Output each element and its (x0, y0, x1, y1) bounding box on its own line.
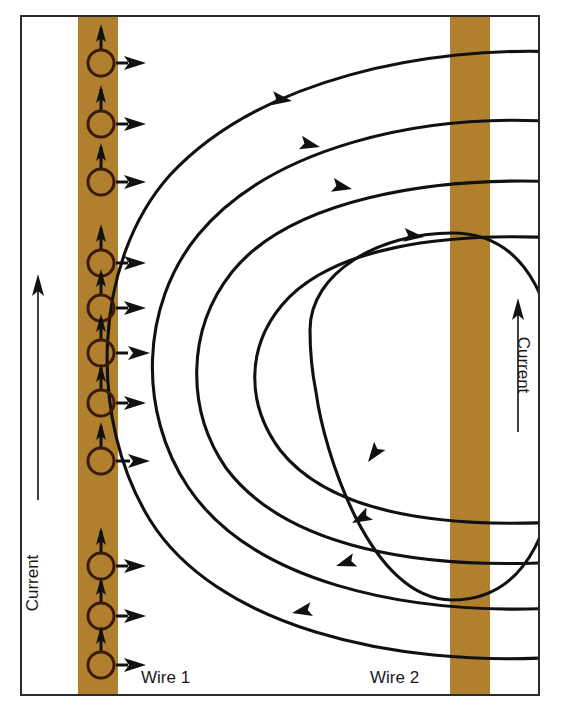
current-label-right: Current (514, 337, 533, 394)
physics-diagram-two-wires: Current Current Wire 1 Wire 2 (0, 0, 561, 719)
current-label-left: Current (23, 554, 42, 611)
wire-1-label: Wire 1 (141, 668, 190, 687)
wire-2-bar (450, 16, 490, 695)
diagram-canvas: Current Current Wire 1 Wire 2 (0, 0, 561, 719)
wire-2-label: Wire 2 (370, 668, 419, 687)
